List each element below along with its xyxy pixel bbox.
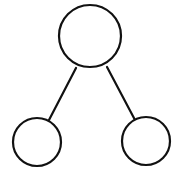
- tree-diagram: [0, 0, 181, 186]
- edges: [49, 67, 135, 120]
- node-left-child: [13, 118, 61, 166]
- nodes: [13, 5, 170, 166]
- node-root: [59, 5, 121, 67]
- edge-root-right: [107, 67, 135, 120]
- edge-root-left: [49, 68, 76, 120]
- node-right-child: [122, 117, 170, 165]
